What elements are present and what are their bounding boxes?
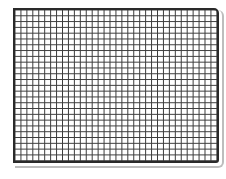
square-grid: 34 26 bbox=[13, 8, 219, 163]
figure-canvas: 34 26 bbox=[0, 0, 226, 179]
